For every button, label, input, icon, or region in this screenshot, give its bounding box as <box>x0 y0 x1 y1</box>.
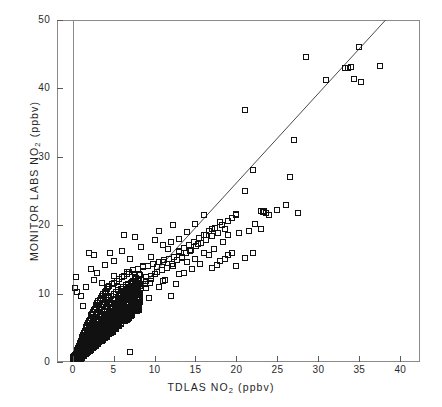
data-point <box>303 54 309 60</box>
y-tick-40 <box>57 88 63 89</box>
data-point <box>97 298 103 304</box>
data-point <box>127 256 133 262</box>
data-point <box>323 77 329 83</box>
x-axis-title: TDLAS NO2 (ppbv) <box>0 381 442 393</box>
data-point <box>126 288 132 294</box>
data-point <box>170 222 176 228</box>
data-point <box>138 244 144 250</box>
data-point <box>119 248 125 254</box>
x-tick-10 <box>155 356 156 362</box>
data-point <box>160 259 166 265</box>
data-point <box>94 326 100 332</box>
data-point <box>348 64 354 70</box>
data-point <box>233 263 239 269</box>
data-point <box>222 226 228 232</box>
data-point <box>121 232 127 238</box>
y-axis-title-pre: MONITOR LABS NO <box>28 147 40 261</box>
y-tick-0 <box>57 362 63 363</box>
data-layer <box>57 20 420 362</box>
data-point <box>225 232 231 238</box>
x-tick-35 <box>359 356 360 362</box>
data-point <box>220 239 226 245</box>
data-point <box>99 280 105 286</box>
data-point <box>160 242 166 248</box>
data-point <box>170 263 176 269</box>
data-point <box>242 107 248 113</box>
data-point <box>209 233 215 239</box>
data-point <box>103 316 109 322</box>
data-point <box>88 266 94 272</box>
y-axis-title-post: (ppbv) <box>28 101 40 141</box>
data-point <box>201 250 207 256</box>
x-tick-label-0: 0 <box>58 364 88 375</box>
data-point <box>201 212 207 218</box>
data-point <box>91 277 97 283</box>
x-tick-40 <box>400 356 401 362</box>
data-point <box>250 167 256 173</box>
data-point <box>102 262 108 268</box>
data-point <box>152 237 158 243</box>
x-tick-5 <box>114 356 115 362</box>
data-point <box>233 212 239 218</box>
data-point <box>148 276 154 282</box>
x-tick-label-10: 10 <box>140 364 170 375</box>
x-tick-label-30: 30 <box>303 364 333 375</box>
y-axis-title: MONITOR LABS NO2 (ppbv) <box>28 61 40 301</box>
data-point <box>209 226 215 232</box>
data-point <box>143 285 149 291</box>
data-point <box>140 263 146 269</box>
data-point <box>75 357 81 362</box>
data-point <box>104 331 110 337</box>
y-tick-label-50: 50 <box>20 14 50 25</box>
y-tick-50 <box>57 20 63 21</box>
x-tick-label-35: 35 <box>344 364 374 375</box>
data-point <box>73 274 79 280</box>
data-point <box>160 278 166 284</box>
y-tick-20 <box>57 225 63 226</box>
data-point <box>148 254 154 260</box>
data-point <box>203 232 209 238</box>
data-point <box>176 236 182 242</box>
data-point <box>94 270 100 276</box>
data-point <box>95 340 101 346</box>
data-point <box>356 44 362 50</box>
data-point <box>91 252 97 258</box>
x-tick-label-25: 25 <box>262 364 292 375</box>
x-axis-title-pre: TDLAS NO <box>168 381 229 393</box>
x-tick-0 <box>73 356 74 362</box>
data-point <box>146 295 152 301</box>
data-point <box>258 226 264 232</box>
data-point <box>236 230 242 236</box>
data-point <box>358 79 364 85</box>
x-tick-label-20: 20 <box>221 364 251 375</box>
data-point <box>242 255 248 261</box>
data-point <box>176 271 182 277</box>
data-point <box>217 219 223 225</box>
data-point <box>123 317 129 323</box>
data-point <box>156 284 162 290</box>
x-axis-title-post: (ppbv) <box>234 381 274 393</box>
data-point <box>246 228 252 234</box>
x-tick-30 <box>318 356 319 362</box>
data-point <box>217 258 223 264</box>
data-point <box>107 250 113 256</box>
data-point <box>192 256 198 262</box>
data-point <box>132 296 138 302</box>
x-tick-25 <box>277 356 278 362</box>
data-point <box>291 137 297 143</box>
y-tick-30 <box>57 157 63 158</box>
x-tick-label-40: 40 <box>385 364 415 375</box>
x-tick-label-5: 5 <box>99 364 129 375</box>
data-point <box>88 333 94 339</box>
x-tick-20 <box>236 356 237 362</box>
x-axis-title-sub: 2 <box>229 386 234 395</box>
y-axis-title-sub: 2 <box>33 141 42 146</box>
data-point <box>173 281 179 287</box>
y-tick-10 <box>57 294 63 295</box>
data-point <box>168 239 174 245</box>
data-point <box>195 241 201 247</box>
data-point <box>80 303 86 309</box>
data-point <box>283 202 289 208</box>
data-point <box>113 316 119 322</box>
data-point <box>274 207 280 213</box>
